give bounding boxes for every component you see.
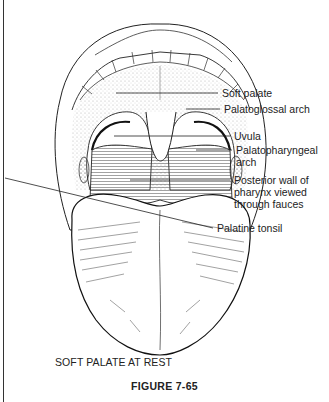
figure-caption: SOFT PALATE AT REST (55, 356, 172, 368)
label-palatine-tonsil: Palatine tonsil (217, 222, 282, 234)
label-uvula: Uvula (234, 130, 261, 142)
label-line: arch (236, 156, 318, 168)
label-palatoglossal-arch: Palatoglossal arch (224, 103, 310, 115)
label-line: pharynx viewed (234, 186, 309, 198)
label-line: through fauces (234, 198, 309, 210)
tonsil-left (79, 157, 89, 183)
label-line: Palatopharyngeal (236, 144, 318, 156)
label-line: Posterior wall of (234, 174, 309, 186)
label-posterior-wall: Posterior wall of pharynx viewed through… (234, 174, 309, 210)
label-soft-palate: Soft palate (222, 87, 272, 99)
figure-number: FIGURE 7-65 (0, 380, 329, 392)
tongue (72, 194, 251, 355)
label-palatopharyngeal-arch: Palatopharyngeal arch (236, 144, 318, 168)
